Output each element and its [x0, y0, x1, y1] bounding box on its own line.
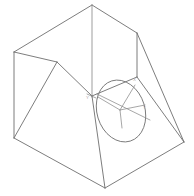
edge-apex-to-right-upper: [92, 5, 137, 33]
circular-hole-group: [89, 74, 153, 148]
x-axis-label: X: [133, 77, 136, 82]
z-axis-line: [120, 110, 122, 128]
edge-apex-to-left-upper: [14, 5, 92, 52]
edge-back-inner-to-junction: [57, 62, 92, 96]
edge-left-upper-to-back-inner: [14, 52, 57, 62]
isometric-wireframe-drawing: Isometric wireframe of an inclined-face …: [0, 0, 194, 196]
edge-inclined-face-diagonal: [92, 96, 105, 188]
solid-body-edges: [14, 5, 184, 188]
x-axis-line: [120, 85, 135, 110]
circular-hole: [89, 74, 153, 148]
edge-back-inner-to-left-lower: [14, 62, 57, 138]
edge-bottom-front-to-right-lower: [105, 142, 184, 188]
back-origin-label: Y: [86, 95, 89, 100]
edge-left-lower-to-bottom-front: [14, 138, 105, 188]
y-axis-label: Y: [143, 105, 146, 110]
